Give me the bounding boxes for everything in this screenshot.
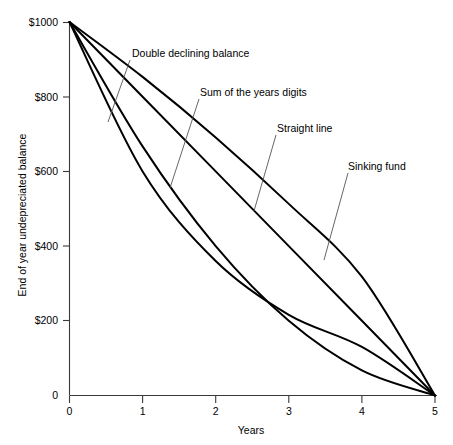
x-tick-label-5: 5 [432,405,438,417]
y-tick-label-400: $400 [35,240,59,252]
y-tick-label-200: $200 [35,314,59,326]
depreciation-chart: $1000 $800 $600 $400 $200 0 0 1 2 3 4 5 [0,0,453,445]
x-tick-label-0: 0 [67,405,73,417]
x-axis-ticks: 0 1 2 3 4 5 [67,396,439,417]
series-label-sum-of-the-years-digits: Sum of the years digits [200,86,307,98]
x-tick-label-2: 2 [213,405,219,417]
y-tick-label-0: 0 [52,389,58,401]
x-axis-title: Years [238,424,264,436]
series-label-double-declining-balance: Double declining balance [132,47,249,59]
series-label-straight-line: Straight line [277,122,333,134]
y-axis-ticks: $1000 $800 $600 $400 $200 0 [29,16,70,401]
y-axis-title: End of year undepreciated balance [16,133,28,296]
series-label-sinking-fund: Sinking fund [348,160,406,172]
leader-line-double-declining-balance [108,60,130,122]
y-tick-label-600: $600 [35,165,59,177]
chart-canvas: $1000 $800 $600 $400 $200 0 0 1 2 3 4 5 [0,0,453,445]
leader-line-straight-line [254,135,276,211]
series-curves [70,22,436,396]
series-annotations: Double declining balance Sum of the year… [132,47,406,172]
y-tick-label-1000: $1000 [29,16,58,28]
leader-line-sum-of-the-years-digits [170,99,199,188]
y-tick-label-800: $800 [35,91,59,103]
x-tick-label-3: 3 [286,405,292,417]
curve-straight-line [70,22,436,396]
x-tick-label-1: 1 [140,405,146,417]
x-tick-label-4: 4 [359,405,365,417]
